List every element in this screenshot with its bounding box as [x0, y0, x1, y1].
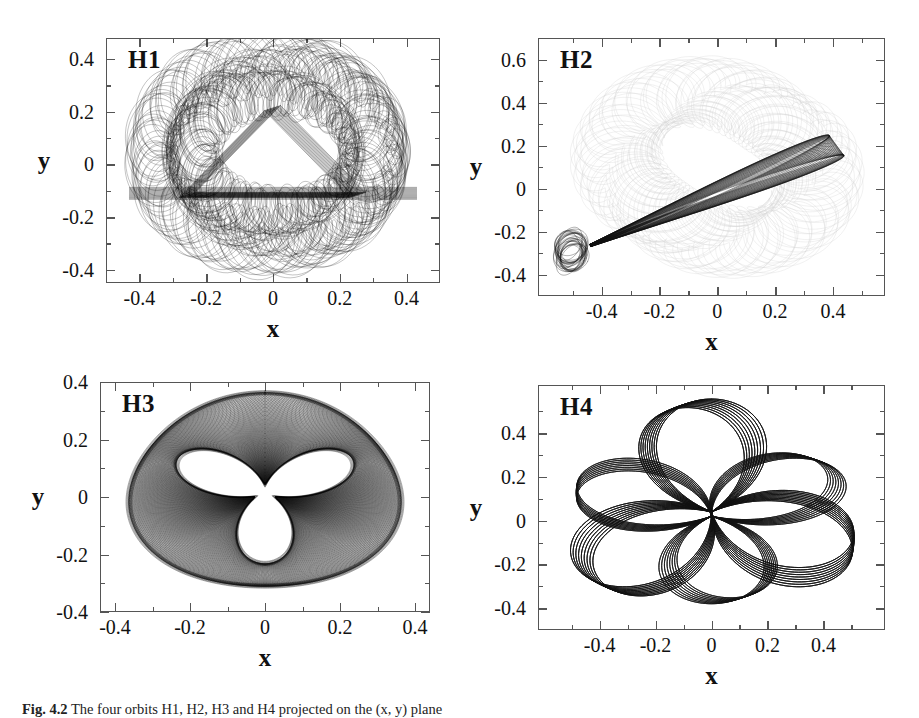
caption-label: Fig. 4.2 [22, 701, 68, 717]
caption-text: The four orbits H1, H2, H3 and H4 projec… [71, 701, 442, 717]
figure-caption: Fig. 4.2 The four orbits H1, H2, H3 and … [22, 700, 902, 718]
orbit-curves-h4 [0, 0, 919, 718]
figure-container: -0.4-0.200.20.40.40.20-0.2-0.4H1yx-0.4-0… [0, 0, 919, 718]
